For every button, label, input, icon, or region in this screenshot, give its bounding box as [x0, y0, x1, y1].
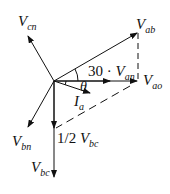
angle-theta-arc [65, 81, 66, 85]
label-vbc: Vbc [31, 160, 50, 178]
vbn-vector [28, 81, 54, 127]
label-vbn: Vbn [12, 134, 31, 152]
label-vcn: Vcn [18, 14, 37, 32]
label-van: 30 · Van [88, 64, 135, 82]
angle-30-arc [75, 69, 78, 81]
label-ia: Ia [74, 94, 84, 112]
phasor-diagram: Vcn Vab 30 · Van Vao θ Ia Vbn 1/2 Vbc Vb… [0, 0, 170, 194]
vao-halfvbc-dashed [56, 86, 130, 128]
label-theta: θ [80, 80, 87, 94]
label-vab: Vab [136, 17, 155, 35]
label-vao: Vao [143, 73, 162, 91]
label-half-vbc: 1/2 Vbc [57, 131, 99, 149]
vcn-vector [28, 36, 54, 81]
